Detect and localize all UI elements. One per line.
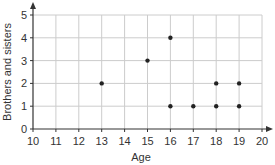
x-tick-label: 19 <box>233 135 245 147</box>
data-point <box>191 104 195 108</box>
y-tick-label: 3 <box>21 55 27 67</box>
scatter-chart: 1011121314151617181920 012345 Age Brothe… <box>0 0 275 165</box>
data-point <box>168 36 172 40</box>
y-tick-label: 2 <box>21 77 27 89</box>
axes <box>30 2 273 132</box>
data-point <box>145 58 149 62</box>
data-point <box>214 104 218 108</box>
y-tick-label: 1 <box>21 100 27 112</box>
x-tick-label: 11 <box>50 135 61 147</box>
x-tick-label: 16 <box>164 135 176 147</box>
x-tick-label: 20 <box>256 135 268 147</box>
y-tick-label: 0 <box>21 123 27 135</box>
x-axis-label: Age <box>131 151 151 163</box>
data-point <box>237 104 241 108</box>
x-tick-label: 13 <box>96 135 108 147</box>
data-point <box>168 104 172 108</box>
x-tick-label: 12 <box>73 135 85 147</box>
y-axis-label: Brothers and sisters <box>1 23 13 121</box>
x-tick-label: 10 <box>27 135 39 147</box>
grid-lines <box>33 15 262 129</box>
x-tick-label: 17 <box>187 135 199 147</box>
x-tick-label: 14 <box>118 135 130 147</box>
y-tick-label: 4 <box>21 32 27 44</box>
y-tick-label: 5 <box>21 9 27 21</box>
x-tick-label: 18 <box>210 135 222 147</box>
data-point <box>100 81 104 85</box>
data-point <box>214 81 218 85</box>
y-tick-labels: 012345 <box>21 9 27 135</box>
y-axis-arrow-icon <box>30 2 36 9</box>
x-tick-labels: 1011121314151617181920 <box>27 135 268 147</box>
data-point <box>237 81 241 85</box>
x-axis-arrow-icon <box>266 126 273 132</box>
x-tick-label: 15 <box>141 135 153 147</box>
